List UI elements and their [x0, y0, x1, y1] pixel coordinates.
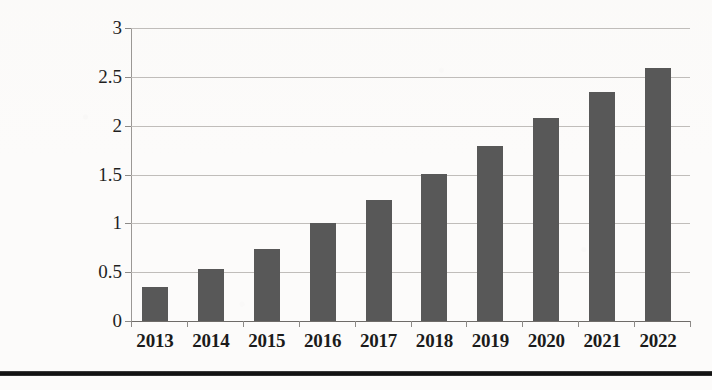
y-tick-label-1: 1	[113, 212, 123, 234]
x-tick-label-2019: 2019	[472, 330, 509, 352]
x-tick-mark-2018	[411, 321, 412, 327]
gridline-y-3	[131, 28, 690, 29]
figure-page: M2M connections (billions) 00.511.522.53…	[0, 0, 712, 390]
page-separator-rule	[0, 371, 712, 376]
x-tick-label-2014: 2014	[192, 330, 229, 352]
x-tick-mark-2021	[578, 321, 579, 327]
bar-2022	[645, 68, 671, 321]
x-tick-label-2017: 2017	[360, 330, 397, 352]
x-tick-mark-2019	[466, 321, 467, 327]
y-tick-label-2: 2	[113, 115, 123, 137]
plot-area: 00.511.522.53	[131, 28, 690, 321]
gridline-y-2.5	[131, 77, 690, 78]
bar-2018	[421, 174, 447, 321]
x-tick-mark-2015	[243, 321, 244, 327]
y-tick-label-2.5: 2.5	[98, 66, 122, 88]
x-tick-label-2016: 2016	[304, 330, 341, 352]
bar-2015	[254, 249, 280, 321]
bar-2017	[366, 200, 392, 321]
bar-2019	[477, 146, 503, 321]
x-tick-label-2020: 2020	[528, 330, 565, 352]
x-tick-label-2018: 2018	[416, 330, 453, 352]
bar-2014	[198, 269, 224, 321]
y-tick-mark-3	[125, 28, 131, 29]
x-tick-mark-2020	[522, 321, 523, 327]
y-tick-label-0: 0	[113, 310, 123, 332]
x-tick-mark-end	[690, 321, 691, 327]
bar-2013	[142, 287, 168, 321]
y-tick-label-0.5: 0.5	[98, 261, 122, 283]
y-tick-mark-0.5	[125, 272, 131, 273]
x-tick-label-2022: 2022	[639, 330, 676, 352]
bar-2020	[533, 118, 559, 321]
y-tick-label-3: 3	[113, 17, 123, 39]
x-tick-mark-2017	[355, 321, 356, 327]
x-tick-label-2021: 2021	[584, 330, 621, 352]
y-axis-title: M2M connections (billions)	[14, 0, 60, 74]
x-tick-mark-2022	[634, 321, 635, 327]
y-tick-mark-1.5	[125, 175, 131, 176]
bar-2021	[589, 92, 615, 321]
y-tick-label-1.5: 1.5	[98, 164, 122, 186]
y-tick-mark-2.5	[125, 77, 131, 78]
x-tick-label-2015: 2015	[248, 330, 285, 352]
x-tick-label-2013: 2013	[136, 330, 173, 352]
y-tick-mark-1	[125, 223, 131, 224]
bar-2016	[310, 223, 336, 321]
x-tick-mark-2016	[299, 321, 300, 327]
x-tick-mark-2014	[187, 321, 188, 327]
y-tick-mark-2	[125, 126, 131, 127]
x-tick-mark-2013	[131, 321, 132, 327]
